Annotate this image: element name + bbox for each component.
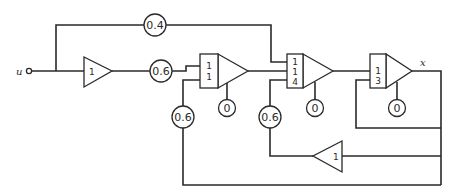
- input-label: u: [16, 66, 22, 77]
- pot-feedback-int2: 0.6: [259, 106, 281, 128]
- pot-feedforward-top: 0.4: [144, 14, 166, 36]
- feedback-inverter: 1: [313, 141, 342, 172]
- output-label: x: [420, 57, 426, 68]
- pot-ic-int3-value: 0: [394, 102, 401, 115]
- wire-feedforward-top-2: [166, 25, 287, 62]
- pot-ic-int2: 0: [307, 100, 324, 117]
- wire-fb-inverter-to-pot: [270, 128, 313, 156]
- integrator-1-gain-1: 1: [206, 61, 212, 71]
- feedback-inverter-gain: 1: [333, 152, 339, 162]
- wire-feedforward-top: [56, 25, 144, 71]
- wire-fb2-to-int2: [270, 80, 287, 106]
- pot-feedback-int1: 0.6: [172, 106, 194, 128]
- pot-ic-int3: 0: [389, 100, 406, 117]
- integrator-3-gain-2: 3: [375, 76, 381, 86]
- input-terminal: [26, 68, 31, 73]
- integrator-3: 1 3: [370, 54, 412, 88]
- integrator-2: 1 1 4: [287, 54, 333, 88]
- pot-ic-int1: 0: [219, 100, 236, 117]
- integrator-2-gain-2: 1: [292, 67, 298, 77]
- pot-forward-main: 0.6: [150, 60, 172, 82]
- integrator-3-gain-1: 1: [375, 66, 381, 76]
- pot-feedback-int1-value: 0.6: [174, 111, 192, 124]
- analog-computer-diagram: u 1 0.4 0.6 0.6 0.6 0 0 0 1 1: [0, 0, 457, 196]
- integrator-1: 1 1: [200, 54, 248, 88]
- pot-feedback-int2-value: 0.6: [261, 111, 279, 124]
- integrator-2-gain-1: 1: [292, 57, 298, 67]
- pot-ic-int1-value: 0: [224, 102, 231, 115]
- input-inverter-gain: 1: [89, 67, 95, 77]
- pot-forward-main-value: 0.6: [152, 65, 170, 78]
- integrator-1-gain-2: 1: [206, 72, 212, 82]
- integrator-2-gain-3: 4: [292, 77, 298, 87]
- input-inverter: 1: [84, 57, 112, 87]
- wire-fb1-to-int1: [183, 80, 200, 106]
- pot-feedforward-top-value: 0.4: [146, 19, 164, 32]
- wire-pot-to-int1: [172, 66, 200, 71]
- pot-ic-int2-value: 0: [312, 102, 319, 115]
